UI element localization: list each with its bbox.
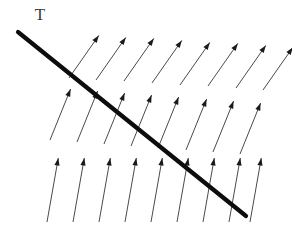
vector-field-diagram: T	[0, 0, 292, 235]
figure-background	[0, 0, 292, 235]
figure-root: T	[0, 0, 292, 235]
labels-layer: T	[35, 5, 46, 24]
line-label-T: T	[35, 5, 46, 24]
